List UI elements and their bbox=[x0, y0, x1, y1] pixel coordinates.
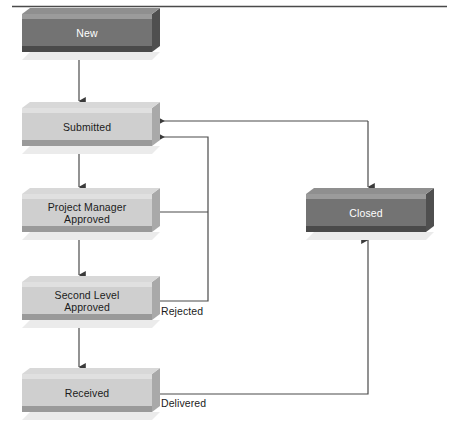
node-received[interactable] bbox=[22, 368, 160, 420]
node-second-level-approved[interactable] bbox=[22, 276, 160, 328]
connector-second-rejected bbox=[152, 137, 208, 301]
node-project-manager-approved[interactable] bbox=[22, 188, 160, 240]
node-closed[interactable] bbox=[306, 188, 434, 240]
edge-label-rejected: Rejected bbox=[161, 305, 203, 317]
edge-label-delivered: Delivered bbox=[161, 397, 206, 409]
node-submitted[interactable] bbox=[22, 102, 160, 154]
node-new[interactable] bbox=[22, 8, 160, 60]
diagram-canvas: New Submitted Project Manager Approved S… bbox=[0, 0, 459, 443]
connector-received-delivered bbox=[152, 240, 368, 394]
